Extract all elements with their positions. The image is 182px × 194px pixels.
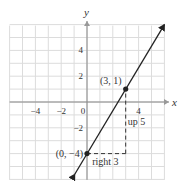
axes: [10, 21, 169, 180]
data-point-label: (3, 1): [100, 75, 122, 87]
y-tick-label: 4: [79, 45, 84, 55]
y-tick-label: 2: [79, 71, 84, 81]
annotation-right-label: right 3: [92, 156, 118, 167]
y-tick-label: −2: [73, 123, 83, 133]
coordinate-plane: −4−20442−2 right 3up 5 (0, −4)(3, 1) x y: [0, 0, 182, 194]
x-tick-label: 4: [136, 106, 141, 116]
x-axis-label: x: [171, 96, 177, 108]
data-point: [84, 151, 89, 156]
plotted-points: (0, −4)(3, 1): [56, 75, 129, 160]
x-tick-label: −4: [31, 106, 41, 116]
data-point-label: (0, −4): [56, 148, 83, 160]
x-tick-label: 0: [81, 106, 86, 116]
y-axis-label: y: [83, 6, 89, 18]
x-tick-label: −2: [56, 106, 66, 116]
annotation-up-label: up 5: [128, 116, 146, 127]
data-point: [123, 87, 128, 92]
